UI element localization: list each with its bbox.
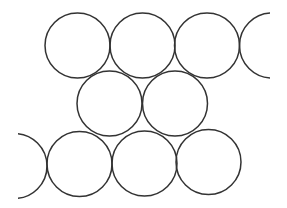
- circle-bottom-1: [47, 132, 112, 197]
- circle-top-3: [175, 13, 240, 78]
- circle-bottom-3: [176, 130, 241, 195]
- circle-bottom-2: [112, 131, 177, 196]
- circle-top-1: [45, 13, 110, 78]
- circle-pattern-canvas: [0, 0, 286, 208]
- circle-middle-1: [77, 71, 142, 136]
- circle-top-partial-right: [240, 13, 287, 78]
- circle-pattern-diagram: [0, 0, 286, 208]
- circle-top-2: [110, 13, 175, 78]
- circle-middle-2: [143, 71, 208, 136]
- circle-bottom-partial-left: [0, 134, 47, 199]
